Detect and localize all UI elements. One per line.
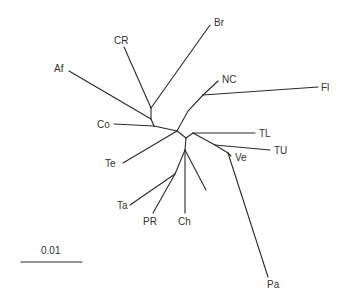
branch-te (123, 131, 177, 163)
branch-unlabeled (185, 150, 206, 190)
branch-lower-stem (185, 138, 186, 150)
taxon-label-tu: TU (274, 145, 287, 156)
branch-co (114, 124, 154, 126)
branch-tu (215, 145, 270, 150)
taxon-label-cr: CR (114, 35, 128, 46)
taxon-label-af: Af (54, 63, 64, 74)
taxon-label-ta: Ta (117, 200, 128, 211)
branch-tapr-stem (175, 150, 185, 174)
branch-central (177, 131, 186, 138)
taxon-label-tl: TL (259, 128, 271, 139)
branch-ncfl-stem (177, 95, 203, 131)
taxon-label-fl: Fl (321, 82, 329, 93)
scale-bar-label: 0.01 (41, 245, 61, 256)
taxon-label-pr: PR (143, 216, 157, 227)
branch-cr (124, 47, 151, 108)
taxon-label-ch: Ch (178, 216, 191, 227)
branch-nc (203, 81, 218, 95)
branch-af (69, 71, 151, 119)
branch-co-stem (154, 126, 177, 131)
taxon-label-pa: Pa (267, 279, 280, 290)
branch-fl (203, 87, 318, 95)
branch-ta (130, 174, 175, 205)
taxon-label-co: Co (97, 119, 110, 130)
phylogenetic-tree: Br CR Af Co NC Fl TL TU Ve Pa Te Ta PR C… (0, 0, 345, 302)
branch-br (151, 25, 210, 108)
branch-af-stem (151, 119, 154, 126)
branch-tu-stem (193, 133, 215, 145)
taxon-label-te: Te (105, 158, 116, 169)
taxon-label-br: Br (214, 17, 225, 28)
branch-right-stem (186, 133, 193, 138)
branch-pr (153, 174, 175, 213)
branch-pa (228, 153, 268, 277)
taxon-label-nc: NC (222, 74, 236, 85)
taxon-label-ve: Ve (235, 152, 247, 163)
